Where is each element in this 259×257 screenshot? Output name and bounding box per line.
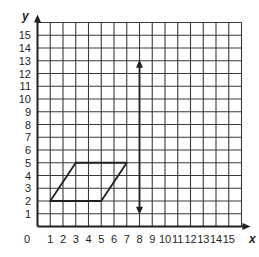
- x-tick-label: 7: [124, 233, 130, 245]
- y-tick-label: 2: [25, 195, 31, 207]
- y-tick-label: 12: [19, 68, 31, 80]
- x-axis-arrow-icon: [243, 223, 251, 230]
- y-tick-label: 8: [25, 119, 31, 131]
- x-tick-label: 13: [197, 233, 209, 245]
- y-tick-label: 11: [20, 80, 31, 92]
- x-tick-label: 15: [223, 233, 235, 245]
- y-tick-label: 7: [25, 131, 31, 143]
- coordinate-grid: 1234567891011121314151234567891011121314…: [0, 0, 259, 257]
- x-tick-label: 10: [159, 233, 171, 245]
- y-tick-label: 13: [19, 55, 31, 67]
- x-tick-label: 12: [184, 233, 196, 245]
- x-axis-label: x: [248, 232, 257, 246]
- x-tick-label: 4: [85, 233, 91, 245]
- y-tick-label: 6: [25, 144, 31, 156]
- y-tick-label: 5: [25, 157, 31, 169]
- x-tick-label: 2: [60, 233, 66, 245]
- x-tick-label: 3: [73, 233, 79, 245]
- x-tick-label: 14: [210, 233, 222, 245]
- axes: [34, 15, 251, 231]
- origin-label: 0: [24, 233, 30, 245]
- y-axis-arrow-icon: [34, 15, 41, 23]
- x-tick-label: 6: [111, 233, 117, 245]
- y-tick-label: 9: [25, 106, 31, 118]
- y-tick-label: 10: [19, 93, 31, 105]
- y-tick-label: 4: [25, 170, 31, 182]
- y-tick-label: 1: [25, 208, 31, 220]
- y-tick-label: 15: [19, 29, 31, 41]
- x-tick-label: 5: [98, 233, 104, 245]
- x-tick-label: 9: [149, 233, 155, 245]
- y-axis-label: y: [21, 9, 30, 23]
- x-tick-label: 11: [172, 233, 183, 245]
- x-tick-label: 8: [136, 233, 142, 245]
- y-tick-label: 3: [25, 182, 31, 194]
- y-tick-label: 14: [19, 42, 31, 54]
- x-tick-label: 1: [47, 233, 53, 245]
